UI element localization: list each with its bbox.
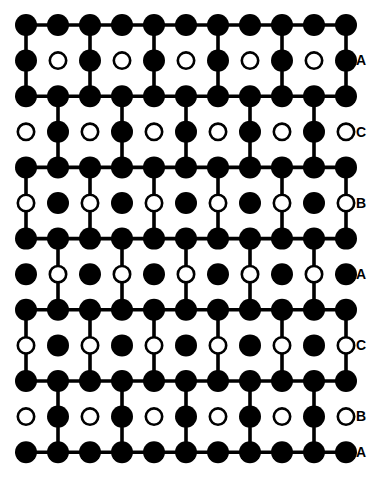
atom-open-r11-c10 <box>338 408 354 424</box>
atom-filled-r6-c3 <box>111 228 133 250</box>
atom-filled-r0-c7 <box>239 14 261 36</box>
atom-open-r3-c8 <box>274 124 290 140</box>
atom-filled-r2-c1 <box>47 85 69 107</box>
atom-filled-r2-c2 <box>79 85 101 107</box>
atom-filled-r12-c7 <box>239 441 261 463</box>
row-label-c-1: C <box>356 124 366 140</box>
atom-filled-r1-c2 <box>79 50 101 72</box>
atom-filled-r3-c3 <box>111 121 133 143</box>
atom-filled-r12-c3 <box>111 441 133 463</box>
atom-filled-r4-c10 <box>335 156 357 178</box>
atom-filled-r4-c2 <box>79 156 101 178</box>
atom-filled-r12-c1 <box>47 441 69 463</box>
atom-filled-r8-c5 <box>175 299 197 321</box>
row-label-c-4: C <box>356 337 366 353</box>
atom-filled-r4-c9 <box>303 156 325 178</box>
atom-filled-r12-c4 <box>143 441 165 463</box>
atom-filled-r2-c9 <box>303 85 325 107</box>
atom-filled-r8-c2 <box>79 299 101 321</box>
atom-filled-r0-c0 <box>15 14 37 36</box>
atom-open-r11-c8 <box>274 408 290 424</box>
atom-filled-r7-c2 <box>79 263 101 285</box>
atom-open-r9-c2 <box>82 337 98 353</box>
atom-open-r11-c0 <box>18 408 34 424</box>
atom-open-r3-c0 <box>18 124 34 140</box>
atom-filled-r6-c4 <box>143 228 165 250</box>
atom-open-r5-c0 <box>18 195 34 211</box>
atom-open-r1-c3 <box>114 52 130 68</box>
atom-filled-r2-c6 <box>207 85 229 107</box>
atom-open-r9-c4 <box>146 337 162 353</box>
row-label-b-2: B <box>356 195 366 211</box>
atom-filled-r7-c8 <box>271 263 293 285</box>
atom-filled-r1-c4 <box>143 50 165 72</box>
atom-open-r5-c6 <box>210 195 226 211</box>
atom-filled-r12-c2 <box>79 441 101 463</box>
atom-filled-r10-c6 <box>207 370 229 392</box>
atom-filled-r0-c1 <box>47 14 69 36</box>
atom-filled-r5-c5 <box>175 192 197 214</box>
atom-filled-r2-c4 <box>143 85 165 107</box>
atom-open-r1-c9 <box>306 52 322 68</box>
atom-filled-r2-c10 <box>335 85 357 107</box>
atom-open-r7-c7 <box>242 266 258 282</box>
lattice-figure: ACBACBA <box>0 0 367 484</box>
atom-filled-r11-c5 <box>175 406 197 428</box>
atom-filled-r6-c2 <box>79 228 101 250</box>
atom-filled-r8-c10 <box>335 299 357 321</box>
atom-open-r11-c6 <box>210 408 226 424</box>
atom-filled-r4-c3 <box>111 156 133 178</box>
atom-filled-r10-c10 <box>335 370 357 392</box>
atom-open-r9-c10 <box>338 337 354 353</box>
atom-open-r9-c0 <box>18 337 34 353</box>
atom-filled-r6-c6 <box>207 228 229 250</box>
atom-filled-r6-c10 <box>335 228 357 250</box>
atom-filled-r2-c7 <box>239 85 261 107</box>
atom-filled-r4-c4 <box>143 156 165 178</box>
atom-filled-r7-c4 <box>143 263 165 285</box>
atom-open-r7-c9 <box>306 266 322 282</box>
atom-filled-r3-c7 <box>239 121 261 143</box>
atom-filled-r10-c8 <box>271 370 293 392</box>
atom-filled-r0-c8 <box>271 14 293 36</box>
atom-filled-r4-c5 <box>175 156 197 178</box>
atom-filled-r10-c5 <box>175 370 197 392</box>
atom-open-r5-c2 <box>82 195 98 211</box>
atom-filled-r3-c5 <box>175 121 197 143</box>
atom-filled-r0-c3 <box>111 14 133 36</box>
atom-filled-r8-c7 <box>239 299 261 321</box>
row-label-a-3: A <box>356 266 366 282</box>
atom-open-r1-c5 <box>178 52 194 68</box>
atom-filled-r0-c4 <box>143 14 165 36</box>
atom-filled-r12-c0 <box>15 441 37 463</box>
atom-filled-r9-c9 <box>303 334 325 356</box>
atom-filled-r7-c10 <box>335 263 357 285</box>
atom-open-r3-c2 <box>82 124 98 140</box>
atom-filled-r12-c10 <box>335 441 357 463</box>
atom-filled-r9-c7 <box>239 334 261 356</box>
atom-filled-r2-c3 <box>111 85 133 107</box>
row-label-a-6: A <box>356 444 366 460</box>
atom-filled-r5-c3 <box>111 192 133 214</box>
atom-filled-r11-c9 <box>303 406 325 428</box>
atom-open-r7-c3 <box>114 266 130 282</box>
atom-filled-r1-c0 <box>15 50 37 72</box>
atom-open-r9-c6 <box>210 337 226 353</box>
atom-filled-r0-c2 <box>79 14 101 36</box>
atom-filled-r12-c6 <box>207 441 229 463</box>
atom-filled-r2-c5 <box>175 85 197 107</box>
atom-filled-r10-c7 <box>239 370 261 392</box>
atom-filled-r1-c10 <box>335 50 357 72</box>
atom-filled-r8-c8 <box>271 299 293 321</box>
atom-filled-r6-c7 <box>239 228 261 250</box>
atom-open-r5-c4 <box>146 195 162 211</box>
atom-filled-r1-c6 <box>207 50 229 72</box>
atom-filled-r12-c5 <box>175 441 197 463</box>
atom-open-r11-c4 <box>146 408 162 424</box>
atom-open-r1-c7 <box>242 52 258 68</box>
atom-filled-r8-c0 <box>15 299 37 321</box>
atom-filled-r8-c6 <box>207 299 229 321</box>
atom-open-r7-c1 <box>50 266 66 282</box>
atom-filled-r10-c0 <box>15 370 37 392</box>
atom-filled-r10-c2 <box>79 370 101 392</box>
